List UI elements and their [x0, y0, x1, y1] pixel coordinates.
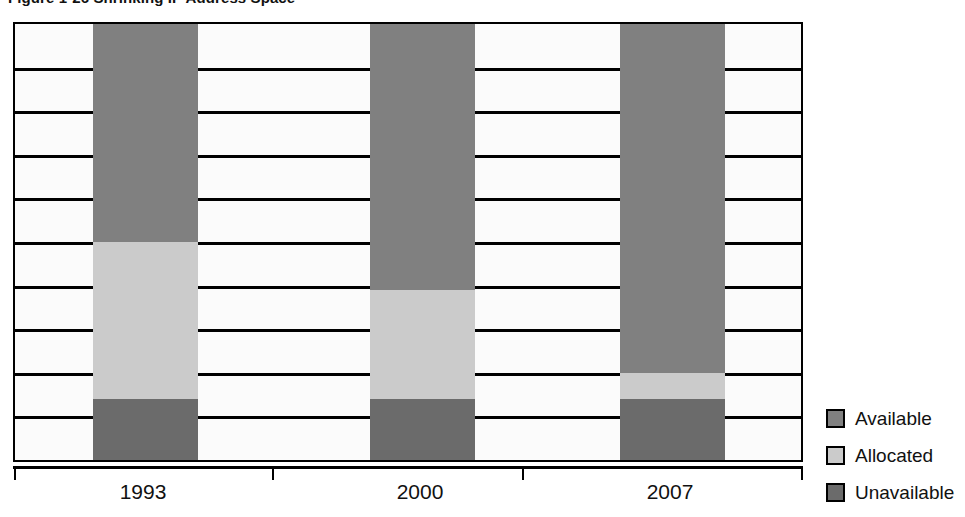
legend-swatch-unavailable: [826, 483, 845, 502]
bar-segment-available: [370, 24, 475, 290]
bar-segment-available: [93, 24, 198, 242]
legend-label-unavailable: Unavailable: [855, 482, 954, 504]
x-axis-label-2007: 2007: [600, 480, 740, 504]
x-axis-tick: [801, 466, 803, 480]
legend-swatch-available: [826, 409, 845, 428]
legend-item-unavailable[interactable]: Unavailable: [826, 474, 965, 511]
bar-segment-unavailable: [370, 399, 475, 460]
x-axis-tick: [522, 466, 524, 480]
legend-item-allocated[interactable]: Allocated: [826, 437, 965, 474]
x-axis-tick: [14, 466, 16, 480]
chart-plot-area: [13, 22, 803, 462]
bar-segment-unavailable: [93, 399, 198, 460]
bar-2000: [370, 24, 475, 460]
x-axis-line: [13, 466, 803, 469]
chart-legend: AvailableAllocatedUnavailable: [826, 400, 965, 511]
bar-segment-allocated: [370, 290, 475, 399]
bar-segment-available: [620, 24, 725, 373]
bar-segment-unavailable: [620, 399, 725, 460]
x-axis-tick: [272, 466, 274, 480]
x-axis-label-1993: 1993: [73, 480, 213, 504]
legend-label-allocated: Allocated: [855, 445, 933, 467]
legend-label-available: Available: [855, 408, 932, 430]
x-axis-label-2000: 2000: [350, 480, 490, 504]
bar-1993: [93, 24, 198, 460]
bar-segment-allocated: [620, 373, 725, 399]
bar-2007: [620, 24, 725, 460]
figure-title: Figure 1-26 Shrinking IP Address Space: [8, 0, 295, 6]
legend-item-available[interactable]: Available: [826, 400, 965, 437]
bar-segment-allocated: [93, 242, 198, 399]
legend-swatch-allocated: [826, 446, 845, 465]
